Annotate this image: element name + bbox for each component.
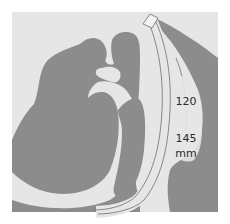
anatomical-diagram: 120 145 mm [0, 0, 230, 224]
measurement-max-label: 145 [174, 133, 198, 144]
measurement-unit-label: mm [174, 148, 198, 159]
measurement-min-label: 120 [174, 96, 198, 107]
diagram-graphic [0, 0, 230, 224]
